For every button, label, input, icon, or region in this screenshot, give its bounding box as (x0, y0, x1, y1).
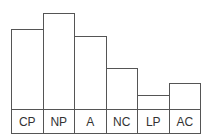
bar-nc (106, 68, 139, 109)
bar-cp (11, 29, 44, 109)
bar-lp (137, 95, 170, 109)
category-label-cp: CP (11, 109, 43, 134)
category-label-a: A (74, 109, 106, 134)
category-label-lp: LP (137, 109, 169, 134)
category-label-ac: AC (169, 109, 202, 134)
category-label-np: NP (43, 109, 75, 134)
bar-ac (169, 83, 202, 109)
category-label-nc: NC (106, 109, 138, 134)
bar-np (43, 13, 76, 109)
bar-chart: CPNPANCLPAC (0, 0, 209, 140)
bar-a (74, 36, 107, 109)
